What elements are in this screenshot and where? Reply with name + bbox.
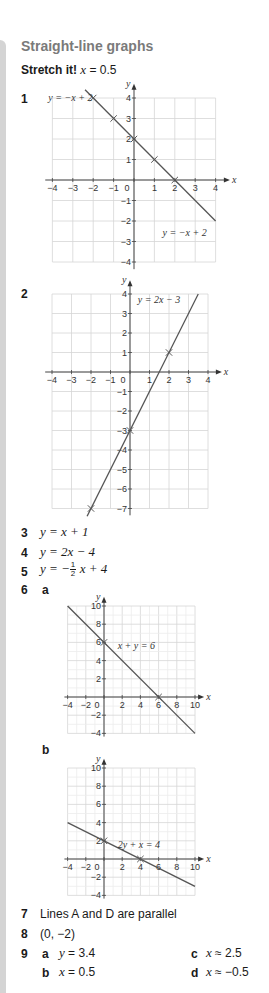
axes: xy−4−20246810108642−2−4 [62, 753, 211, 901]
x-tick-label: 2 [120, 862, 125, 872]
y-tick-label: −4 [91, 890, 101, 900]
question-8-answer: (0, −2) [40, 927, 75, 941]
q9c-label: c [191, 947, 198, 961]
q9d-answer: x ≈ −0.5 [206, 964, 249, 980]
q9c-answer: x ≈ 2.5 [206, 945, 242, 961]
x-tick-label: 8 [174, 862, 179, 872]
x-tick-label: 0 [94, 862, 99, 872]
question-7-answer: Lines A and D are parallel [40, 907, 177, 921]
question-9-number: 9 [21, 947, 28, 961]
y-tick-label: 6 [96, 799, 101, 809]
x-tick-label: 4 [138, 862, 143, 872]
q9b-label: b [42, 966, 49, 980]
q9a-answer: y = 3.4 [59, 945, 95, 961]
graph-q6b: xy−4−20246810108642−2−42y + x = 4 [0, 0, 269, 900]
q9d-label: d [191, 966, 198, 980]
x-axis-arrow-icon [198, 857, 204, 862]
x-tick-label: −4 [62, 862, 72, 872]
question-8-number: 8 [21, 927, 28, 941]
x-tick-label: 10 [190, 862, 200, 872]
q9d-val: ≈ −0.5 [212, 965, 249, 979]
x-axis-label: x [205, 853, 211, 864]
y-axis-arrow-icon [102, 759, 107, 765]
q9a-label: a [42, 947, 49, 961]
q9b-answer: x = 0.5 [59, 964, 95, 980]
line-equation-label: 2y + x = 4 [118, 839, 160, 850]
q9a-val: = 3.4 [65, 946, 95, 960]
y-tick-label: −2 [91, 872, 101, 882]
x-tick-label: −2 [81, 862, 91, 872]
q9b-val: = 0.5 [65, 965, 95, 979]
q9c-val: ≈ 2.5 [212, 946, 242, 960]
y-tick-label: 8 [96, 781, 101, 791]
y-tick-label: 10 [91, 763, 101, 773]
question-7-number: 7 [21, 907, 28, 921]
y-tick-label: 4 [96, 818, 101, 828]
